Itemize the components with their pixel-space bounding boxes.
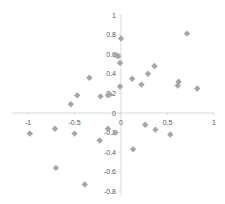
x-tick-label: 0 — [119, 119, 123, 126]
data-point-marker — [118, 35, 124, 41]
x-tick-label: 0.5 — [163, 119, 173, 126]
data-point-marker — [167, 131, 173, 137]
data-point-marker — [152, 126, 158, 132]
x-tick-label: -1 — [25, 119, 31, 126]
data-point-marker — [71, 130, 77, 136]
data-point-marker — [194, 85, 200, 91]
data-point-marker — [96, 137, 102, 143]
data-point-marker — [130, 146, 136, 152]
data-point-marker — [74, 92, 80, 98]
y-tick-label: -0.4 — [104, 149, 116, 156]
data-point-marker — [97, 93, 103, 99]
data-point-marker — [27, 130, 33, 136]
data-point-marker — [184, 30, 190, 36]
y-tick-label: 0.4 — [106, 70, 116, 77]
data-point-marker — [151, 63, 157, 69]
scatter-chart: 10.80.60.40.20-0.2-0.4-0.6-0.8-1-0.500.5… — [0, 0, 225, 204]
data-point-marker — [142, 122, 148, 128]
y-tick-label: -0.6 — [104, 168, 116, 175]
data-point-marker — [117, 83, 123, 89]
data-point-marker — [145, 71, 151, 77]
data-point-marker — [86, 75, 92, 81]
y-tick-label: 0 — [112, 110, 116, 117]
data-point-marker — [117, 60, 123, 66]
data-point-marker — [53, 165, 59, 171]
data-point-marker — [138, 81, 144, 87]
x-tick-label: -0.5 — [68, 119, 80, 126]
data-point-marker — [129, 76, 135, 82]
y-tick-label: 1 — [112, 12, 116, 19]
data-point-marker — [52, 125, 58, 131]
data-point-marker — [68, 101, 74, 107]
y-tick-label: -0.8 — [104, 188, 116, 195]
data-point-marker — [82, 181, 88, 187]
x-tick-label: 1 — [212, 119, 216, 126]
y-tick-label: 0.8 — [106, 31, 116, 38]
